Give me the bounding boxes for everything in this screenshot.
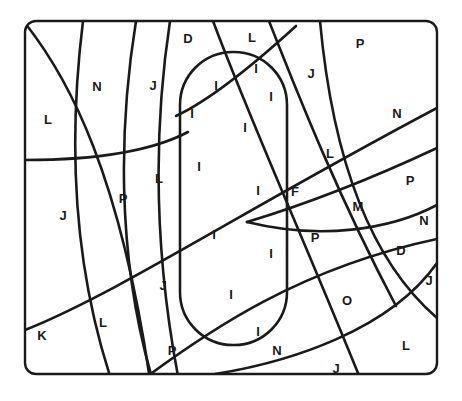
arc-left-vertical-2 bbox=[124, 21, 152, 378]
arc-long-diagonal-lower-left bbox=[25, 108, 437, 330]
arc-left-vertical-3 bbox=[159, 21, 178, 376]
arc-left-vertical-1 bbox=[75, 21, 110, 376]
curve-group bbox=[25, 21, 437, 380]
arc-bottom-right-sweep bbox=[215, 263, 437, 374]
region-map-svg bbox=[0, 0, 462, 401]
arc-upper-left-diagonal bbox=[25, 23, 150, 380]
arc-horizontal-left-mid bbox=[25, 132, 188, 160]
puzzle-canvas: DLPNJIIJLIINILILPPIFJMNIPDIJJIOLIKLPNJ bbox=[0, 0, 462, 401]
arc-horizontal-right-low bbox=[247, 205, 437, 231]
